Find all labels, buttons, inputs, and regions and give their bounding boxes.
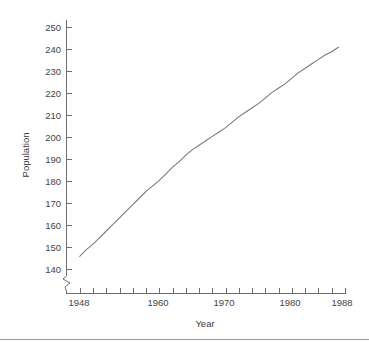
chart-svg: 250 240 230 220 210 200 — [0, 0, 369, 345]
population-line-chart: 250 240 230 220 210 200 — [0, 0, 369, 345]
x-tick-group — [81, 288, 346, 294]
x-tick-label-1988: 1988 — [331, 297, 352, 308]
y-tick-label: 230 — [45, 66, 61, 77]
y-tick-label: 140 — [45, 264, 61, 275]
x-tick-label-1960: 1960 — [147, 297, 168, 308]
x-axis-title: Year — [195, 318, 214, 329]
y-tick-label: 210 — [45, 110, 61, 121]
y-tick-label: 150 — [45, 242, 61, 253]
y-tick-label: 180 — [45, 176, 61, 187]
x-tick-label-1948: 1948 — [68, 297, 89, 308]
y-tick-label: 250 — [45, 22, 61, 33]
x-tick-label-1970: 1970 — [213, 297, 234, 308]
y-tick-label: 170 — [45, 198, 61, 209]
y-tick-label: 240 — [45, 44, 61, 55]
y-axis-title: Population — [20, 133, 31, 178]
y-tick-label: 200 — [45, 132, 61, 143]
y-tick-label: 160 — [45, 220, 61, 231]
y-tick-label: 220 — [45, 88, 61, 99]
x-tick-label-1980: 1980 — [279, 297, 300, 308]
y-tick-label: 190 — [45, 154, 61, 165]
